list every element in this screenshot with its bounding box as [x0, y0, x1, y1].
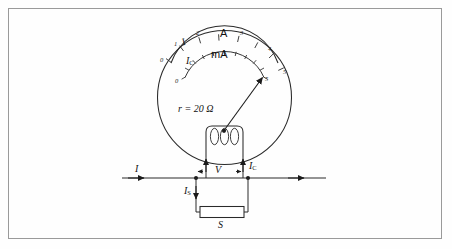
shunt-resistor-body: [200, 207, 244, 218]
main-current-label-main: I: [135, 163, 138, 174]
internal-resistance-label: r = 20 Ω: [178, 104, 213, 114]
figure-root: 0 1 2 3 4 5 A I 0 5 mA IC r = 20 Ω I IC …: [0, 0, 452, 249]
inner-scale-quantity-sub: C: [189, 59, 193, 66]
outer-scale-unit-label: A: [220, 28, 227, 39]
outer-tick-label-5: 5: [283, 69, 286, 76]
main-current-label: I: [135, 164, 138, 174]
shunt-resistor-label: S: [218, 220, 223, 230]
terminal-voltage-label: V: [215, 165, 221, 175]
coil-current-label-sub: C: [252, 164, 256, 171]
coil-current-label: IC: [249, 161, 257, 172]
outer-tick-label-2: 2: [196, 30, 199, 37]
inner-tick-label-5: 5: [265, 76, 268, 83]
inner-scale-quantity-label: IC: [186, 56, 194, 67]
inner-scale-unit-label: mA: [211, 49, 228, 60]
coil-loop: [230, 128, 238, 144]
inner-tick-label-0: 0: [175, 78, 178, 85]
shunt-current-label: IS: [184, 186, 191, 197]
outer-tick-label-1: 1: [174, 41, 177, 48]
shunt-current-label-sub: S: [187, 189, 191, 196]
outer-tick-label-3: 3: [240, 30, 243, 37]
outer-tick-label-4: 4: [268, 46, 271, 53]
outer-tick-label-0: 0: [160, 57, 163, 64]
meter-needle: [224, 78, 263, 131]
coil-loop: [210, 128, 218, 144]
